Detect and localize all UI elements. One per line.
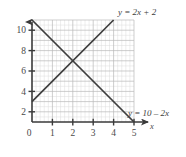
origin-label: 0 <box>27 128 32 138</box>
x-tick-label-2: 2 <box>70 128 75 138</box>
equation-label-line2: y = 10 – 2x <box>127 108 169 118</box>
x-axis-name-label: x <box>149 121 154 131</box>
graph-figure: 2 4 6 8 10 1 2 3 4 5 0 x y = 2x + 2 y = … <box>0 0 186 157</box>
x-tick-label-3: 3 <box>91 128 96 138</box>
x-tick-label-1: 1 <box>50 128 55 138</box>
coordinate-plane-svg: 2 4 6 8 10 1 2 3 4 5 0 x y = 2x + 2 y = … <box>0 0 186 157</box>
y-tick-label-8: 8 <box>21 46 26 56</box>
y-tick-label-10: 10 <box>17 25 27 35</box>
x-tick-label-5: 5 <box>132 128 137 138</box>
y-tick-label-6: 6 <box>21 66 26 76</box>
equation-label-line1: y = 2x + 2 <box>117 7 157 17</box>
y-tick-label-2: 2 <box>21 107 26 117</box>
x-tick-label-4: 4 <box>111 128 116 138</box>
y-tick-label-4: 4 <box>21 87 26 97</box>
